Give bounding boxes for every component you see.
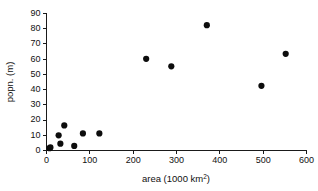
y-tick-label: 20 [30,114,40,124]
x-tick-label: 0 [44,155,49,165]
x-tick-label: 600 [299,155,314,165]
x-axis: 0100200300400500600 [44,151,314,165]
data-point [56,132,62,138]
y-tick-label: 30 [30,99,40,109]
y-tick-label: 60 [30,54,40,64]
y-tick-label: 90 [30,8,40,18]
x-tick-label: 400 [212,155,227,165]
y-tick-label: 50 [30,69,40,79]
x-axis-title-tail: ) [207,173,210,184]
x-axis-tick-labels: 0100200300400500600 [44,155,314,165]
y-axis-title: popn. (m) [4,62,15,103]
y-tick-label: 10 [30,130,40,140]
data-point [204,22,210,28]
x-tick-label: 200 [126,155,141,165]
scatter-plot-figure: 0102030405060708090 0100200300400500600 … [0,0,318,191]
data-point [143,56,149,62]
y-tick-label: 40 [30,84,40,94]
data-point [47,144,53,150]
plot-canvas: 0102030405060708090 0100200300400500600 … [0,0,318,191]
x-tick-label: 100 [82,155,97,165]
x-tick-label: 500 [256,155,271,165]
data-point [57,141,63,147]
y-tick-label: 70 [30,38,40,48]
x-axis-title: area (1000 km2) [142,173,210,185]
data-point [258,83,264,89]
y-tick-label: 0 [35,145,40,155]
data-point [168,63,174,69]
y-tick-label: 80 [30,23,40,33]
data-point [80,130,86,136]
x-tick-label: 300 [169,155,184,165]
data-point [96,130,102,136]
data-point [71,143,77,149]
x-axis-title-base: area (1000 km [142,173,203,184]
data-point [61,122,67,128]
data-point-series [46,22,288,151]
y-axis-tick-labels: 0102030405060708090 [30,8,40,155]
data-point [283,51,289,57]
y-axis: 0102030405060708090 [30,8,46,155]
